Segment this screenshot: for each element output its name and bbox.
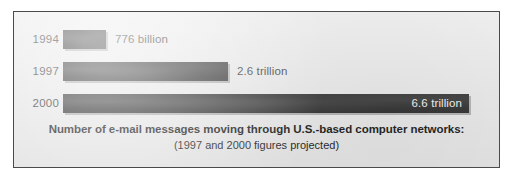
chart-caption-block: Number of e-mail messages moving through… [14, 122, 499, 154]
bar-category-label: 1994 [14, 34, 59, 46]
bar-wrapper: 776 billion [63, 30, 106, 49]
bar-category-label: 2000 [14, 98, 59, 110]
bar-1994 [63, 30, 106, 49]
bar-value-label: 2.6 trillion [237, 66, 287, 78]
chart-title: Number of e-mail messages moving through… [14, 122, 499, 138]
bar-wrapper: 2.6 trillion [63, 62, 228, 81]
chart-bar-row: 1997 2.6 trillion [14, 62, 499, 81]
chart-plot-area: 1994 776 billion 1997 2.6 trillion 2000 … [14, 12, 499, 118]
bar-value-label: 6.6 trillion [412, 98, 462, 110]
chart-bar-row: 2000 6.6 trillion [14, 94, 499, 113]
bar-wrapper: 6.6 trillion [63, 94, 469, 113]
bar-value-label: 776 billion [115, 34, 168, 46]
bar-2000: 6.6 trillion [63, 94, 469, 113]
chart-panel: 1994 776 billion 1997 2.6 trillion 2000 … [13, 11, 500, 168]
bar-category-label: 1997 [14, 66, 59, 78]
bar-1997 [63, 62, 228, 81]
chart-subtitle: (1997 and 2000 figures projected) [14, 138, 499, 154]
chart-bar-row: 1994 776 billion [14, 30, 499, 49]
